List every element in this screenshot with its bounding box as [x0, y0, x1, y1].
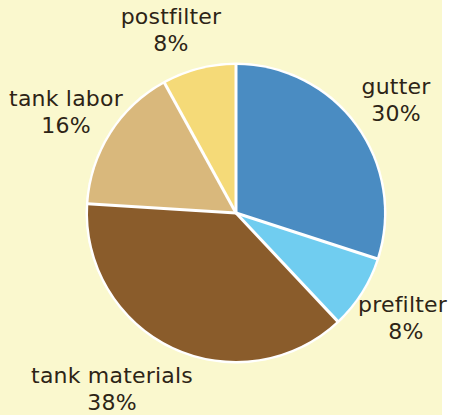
- pie-label-tank-labor: tank labor 16%: [2, 86, 130, 140]
- pie-label-gutter-value: 30%: [350, 101, 442, 128]
- pie-label-postfilter-name: postfilter: [106, 4, 236, 31]
- pie-label-postfilter: postfilter 8%: [106, 4, 236, 58]
- pie-label-tank-labor-name: tank labor: [2, 86, 130, 113]
- pie-label-tank-labor-value: 16%: [2, 113, 130, 140]
- pie-label-prefilter: prefilter 8%: [358, 292, 452, 346]
- pie-label-prefilter-name: prefilter: [358, 292, 452, 319]
- pie-label-gutter-name: gutter: [350, 74, 442, 101]
- pie-label-gutter: gutter 30%: [350, 74, 442, 128]
- pie-label-tank-materials-name: tank materials: [26, 363, 198, 390]
- pie-label-prefilter-value: 8%: [358, 319, 452, 346]
- pie-label-tank-materials-value: 38%: [26, 390, 198, 415]
- pie-label-tank-materials: tank materials 38%: [26, 363, 198, 415]
- pie-label-postfilter-value: 8%: [106, 31, 236, 58]
